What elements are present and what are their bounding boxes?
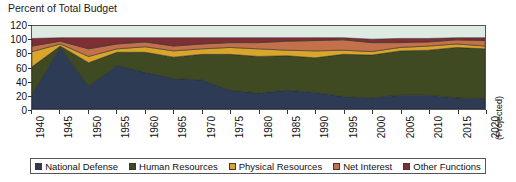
x-axis-tick-mark bbox=[344, 110, 345, 114]
y-axis-tick-label: 100 bbox=[0, 34, 27, 45]
x-axis-tick-mark bbox=[116, 110, 117, 114]
x-axis-tick-label: 1980 bbox=[263, 116, 274, 138]
x-axis-tick-label: 1955 bbox=[120, 116, 131, 138]
y-axis-tick-mark bbox=[28, 39, 32, 40]
x-axis-tick-mark bbox=[145, 110, 146, 114]
stacked-area-paths bbox=[32, 26, 485, 109]
chart-title: Percent of Total Budget bbox=[8, 2, 117, 14]
x-axis-tick-label: 1950 bbox=[92, 116, 103, 138]
legend-label: Other Functions bbox=[413, 161, 481, 172]
x-axis-tick-mark bbox=[259, 110, 260, 114]
legend-label: National Defense bbox=[45, 161, 118, 172]
x-axis-tick-mark bbox=[173, 110, 174, 114]
x-axis-tick-mark bbox=[401, 110, 402, 114]
x-axis-tick-label: 1995 bbox=[348, 116, 359, 138]
legend-label: Net Interest bbox=[343, 161, 392, 172]
legend-item[interactable]: Physical Resources bbox=[229, 161, 322, 172]
x-axis-tick-label: 1940 bbox=[35, 116, 46, 138]
x-axis-tick-mark bbox=[429, 110, 430, 114]
legend-swatch-icon bbox=[333, 163, 340, 170]
x-axis-tick-mark bbox=[88, 110, 89, 114]
x-axis-tick-label: 2010 bbox=[433, 116, 444, 138]
chart-legend: National DefenseHuman ResourcesPhysical … bbox=[30, 158, 486, 174]
x-axis-tick-mark bbox=[458, 110, 459, 114]
x-axis-tick-label: 1970 bbox=[206, 116, 217, 138]
legend-swatch-icon bbox=[35, 163, 42, 170]
x-axis: 1940194519501955196019651970197519801985… bbox=[31, 110, 486, 158]
x-axis-tick-mark bbox=[59, 110, 60, 114]
x-axis-tick-mark bbox=[315, 110, 316, 114]
y-axis-tick-label: 80 bbox=[0, 48, 27, 59]
x-axis-tick-label: 1945 bbox=[63, 116, 74, 138]
budget-composition-chart: Percent of Total Budget 020406080100120 … bbox=[0, 0, 516, 182]
y-axis-tick-label: 20 bbox=[0, 90, 27, 101]
legend-swatch-icon bbox=[229, 163, 236, 170]
y-axis-tick-mark bbox=[28, 82, 32, 83]
x-axis-tick-mark bbox=[202, 110, 203, 114]
x-axis-tick-label: 1960 bbox=[149, 116, 160, 138]
y-axis-tick-label: 60 bbox=[0, 62, 27, 73]
x-axis-tick-label: 2005 bbox=[405, 116, 416, 138]
x-axis-tick-mark bbox=[31, 110, 32, 114]
legend-item[interactable]: Other Functions bbox=[403, 161, 481, 172]
y-axis-tick-mark bbox=[28, 25, 32, 26]
legend-swatch-icon bbox=[129, 163, 136, 170]
y-axis-tick-label: 0 bbox=[0, 105, 27, 116]
x-axis-tick-label: 1975 bbox=[234, 116, 245, 138]
y-axis-tick-label: 120 bbox=[0, 20, 27, 31]
x-axis-tick-label: 1965 bbox=[177, 116, 188, 138]
x-axis-tick-mark bbox=[486, 110, 487, 114]
y-axis-tick-label: 40 bbox=[0, 76, 27, 87]
x-axis-tick-mark bbox=[372, 110, 373, 114]
x-axis-tick-mark bbox=[230, 110, 231, 114]
x-axis-tick-mark bbox=[287, 110, 288, 114]
legend-swatch-icon bbox=[403, 163, 410, 170]
legend-item[interactable]: National Defense bbox=[35, 161, 118, 172]
legend-label: Physical Resources bbox=[239, 161, 322, 172]
x-axis-tick-label: 2015 bbox=[462, 116, 473, 138]
y-axis-tick-mark bbox=[28, 68, 32, 69]
x-axis-tick-label: 1985 bbox=[291, 116, 302, 138]
x-axis-tick-label: 1990 bbox=[319, 116, 330, 138]
projected-annotation: (Projected) bbox=[494, 96, 504, 140]
plot-area bbox=[31, 25, 486, 110]
legend-item[interactable]: Net Interest bbox=[333, 161, 392, 172]
y-axis-tick-mark bbox=[28, 53, 32, 54]
y-axis-tick-mark bbox=[28, 96, 32, 97]
legend-item[interactable]: Human Resources bbox=[129, 161, 218, 172]
legend-label: Human Resources bbox=[139, 161, 218, 172]
x-axis-tick-label: 2000 bbox=[376, 116, 387, 138]
